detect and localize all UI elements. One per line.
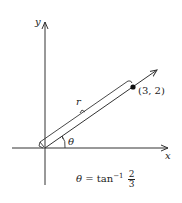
theta-label: θ: [68, 136, 74, 147]
x-axis-label: x: [165, 150, 171, 161]
r-brace: [39, 81, 132, 148]
equation-equals: =: [85, 173, 93, 184]
y-axis-label: y: [35, 16, 41, 27]
polar-angle-diagram: y x (3, 2) r θ θ = tan−1 2 3: [0, 0, 182, 203]
point-dot: [130, 84, 135, 89]
fraction-denominator: 3: [129, 180, 135, 189]
equation: θ = tan−1 2 3: [76, 170, 135, 189]
r-label: r: [76, 96, 81, 107]
equation-func: tan: [97, 173, 113, 184]
equation-fraction: 2 3: [128, 170, 136, 189]
equation-lhs: θ: [76, 173, 82, 184]
equation-exponent: −1: [113, 172, 123, 180]
point-label: (3, 2): [138, 85, 165, 96]
